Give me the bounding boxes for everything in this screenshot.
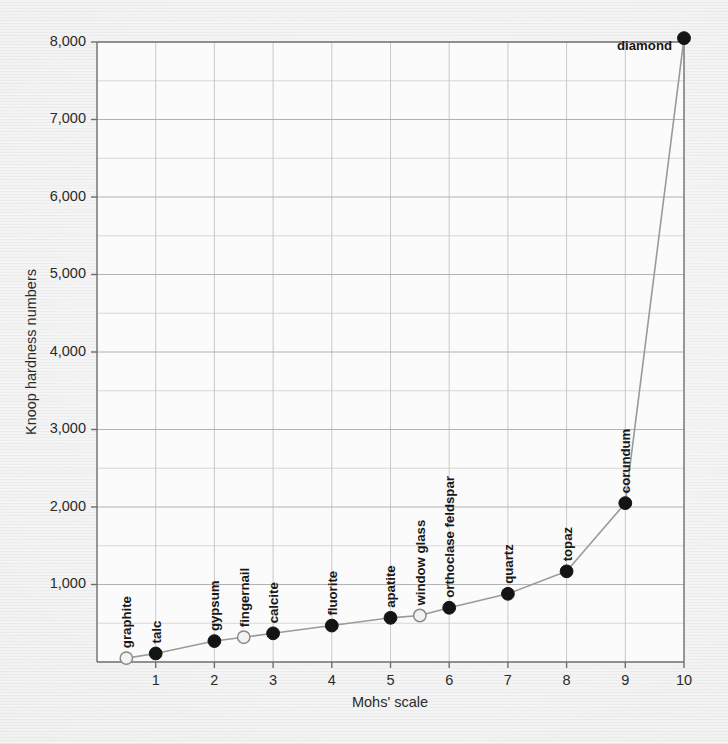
y-tick-label: 7,000 <box>50 110 86 126</box>
x-tick-label: 6 <box>445 672 453 688</box>
point-label-diamond: diamond <box>617 38 672 53</box>
x-tick-label: 3 <box>269 672 277 688</box>
point-label-graphite: graphite <box>119 596 134 648</box>
x-axis-title: Mohs' scale <box>352 694 428 710</box>
y-tick-labels: 1,0002,0003,0004,0005,0006,0007,0008,000 <box>50 33 86 592</box>
y-axis-title: Knoop hardness numbers <box>23 269 39 435</box>
data-point-orthoclase-feldspar[interactable] <box>443 601 456 614</box>
y-tick-marks <box>91 42 97 585</box>
x-tick-label: 4 <box>328 672 336 688</box>
point-label-orthoclase-feldspar: orthoclase feldspar <box>442 476 457 598</box>
y-tick-label: 4,000 <box>50 343 86 359</box>
data-point-graphite[interactable] <box>120 652 132 664</box>
data-point-calcite[interactable] <box>267 627 280 640</box>
x-tick-labels: 12345678910 <box>152 672 692 688</box>
mohs-hardness-line-chart: 1,0002,0003,0004,0005,0006,0007,0008,000… <box>0 0 728 744</box>
point-label-window-glass: window glass <box>413 520 428 607</box>
x-tick-label: 1 <box>152 672 160 688</box>
x-tick-label: 9 <box>621 672 629 688</box>
data-point-corundum[interactable] <box>619 497 632 510</box>
data-point-window-glass[interactable] <box>414 609 426 621</box>
x-tick-label: 5 <box>386 672 394 688</box>
point-label-topaz: topaz <box>560 526 575 561</box>
y-tick-label: 2,000 <box>50 498 86 514</box>
x-tick-label: 2 <box>210 672 218 688</box>
data-point-fingernail[interactable] <box>238 631 250 643</box>
chart-figure: 1,0002,0003,0004,0005,0006,0007,0008,000… <box>0 0 728 744</box>
data-point-apatite[interactable] <box>384 611 397 624</box>
point-label-fluorite: fluorite <box>325 571 340 616</box>
y-tick-label: 6,000 <box>50 188 86 204</box>
data-point-fluorite[interactable] <box>325 619 338 632</box>
data-point-talc[interactable] <box>149 647 162 660</box>
point-label-apatite: apatite <box>384 565 399 608</box>
x-tick-label: 10 <box>676 672 692 688</box>
point-label-quartz: quartz <box>501 544 516 584</box>
y-tick-label: 5,000 <box>50 265 86 281</box>
y-tick-label: 8,000 <box>50 33 86 49</box>
data-point-quartz[interactable] <box>502 587 515 600</box>
point-label-corundum: corundum <box>618 429 633 493</box>
x-tick-label: 8 <box>563 672 571 688</box>
data-point-topaz[interactable] <box>560 565 573 578</box>
point-label-gypsum: gypsum <box>207 581 222 632</box>
point-label-calcite: calcite <box>266 582 281 623</box>
data-point-diamond[interactable] <box>678 32 691 45</box>
y-tick-label: 3,000 <box>50 420 86 436</box>
x-tick-marks <box>156 662 684 668</box>
data-point-gypsum[interactable] <box>208 635 221 648</box>
x-tick-label: 7 <box>504 672 512 688</box>
point-label-talc: talc <box>149 621 164 644</box>
point-label-fingernail: fingernail <box>237 568 252 627</box>
y-tick-label: 1,000 <box>50 575 86 591</box>
